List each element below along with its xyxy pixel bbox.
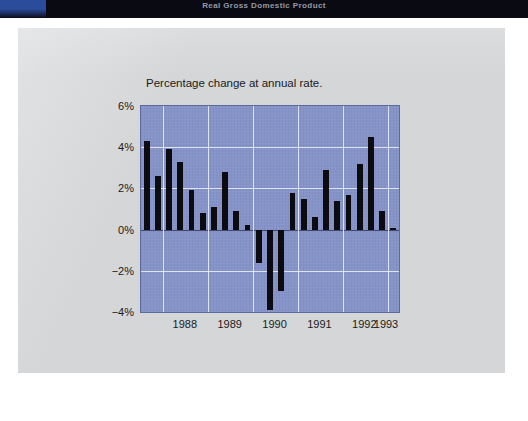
- bar: [323, 170, 329, 230]
- bar: [267, 230, 273, 310]
- y-axis-labels: 6%4%2%0%−2%−4%: [100, 105, 134, 313]
- y-tick-label: −4%: [112, 306, 134, 318]
- bar: [290, 193, 296, 230]
- gridline-vertical: [298, 106, 299, 312]
- gridline-horizontal: [141, 147, 399, 148]
- y-tick-label: 4%: [118, 141, 134, 153]
- bar: [233, 211, 239, 230]
- bar: [189, 190, 195, 229]
- gdp-bar-chart: Percentage change at annual rate. 6%4%2%…: [18, 28, 505, 373]
- bar: [346, 195, 352, 230]
- bar: [144, 141, 150, 230]
- bar: [379, 211, 385, 230]
- gridline-vertical: [253, 106, 254, 312]
- y-tick-label: 2%: [118, 182, 134, 194]
- bar: [155, 176, 161, 230]
- bar: [245, 225, 251, 229]
- x-tick-label: 1991: [307, 318, 331, 330]
- bar: [390, 228, 396, 230]
- chart-subtitle: Percentage change at annual rate.: [146, 77, 322, 89]
- x-tick-label: 1988: [173, 318, 197, 330]
- plot-area: [140, 105, 400, 313]
- y-tick-label: 6%: [118, 100, 134, 112]
- y-tick-label: −2%: [112, 265, 134, 277]
- bar: [256, 230, 262, 263]
- x-tick-label: 1989: [217, 318, 241, 330]
- x-axis-labels: 198819891990199119921993: [140, 318, 400, 334]
- bar: [301, 199, 307, 230]
- gridline-vertical: [388, 106, 389, 312]
- top-banner: Real Gross Domestic Product: [0, 0, 528, 18]
- gridline-vertical: [208, 106, 209, 312]
- x-tick-label: 1990: [262, 318, 286, 330]
- bar: [357, 164, 363, 230]
- gridline-vertical: [343, 106, 344, 312]
- banner-title: Real Gross Domestic Product: [0, 0, 528, 15]
- bar: [222, 172, 228, 230]
- bar: [166, 149, 172, 229]
- gridline-vertical: [163, 106, 164, 312]
- figure-card: Percentage change at annual rate. 6%4%2%…: [18, 28, 505, 373]
- bar: [200, 213, 206, 229]
- bar: [278, 230, 284, 292]
- bar: [368, 137, 374, 230]
- bar: [312, 217, 318, 229]
- bar: [334, 201, 340, 230]
- x-tick-label: 1993: [374, 318, 398, 330]
- y-tick-label: 0%: [118, 224, 134, 236]
- bar: [177, 162, 183, 230]
- bar: [211, 207, 217, 230]
